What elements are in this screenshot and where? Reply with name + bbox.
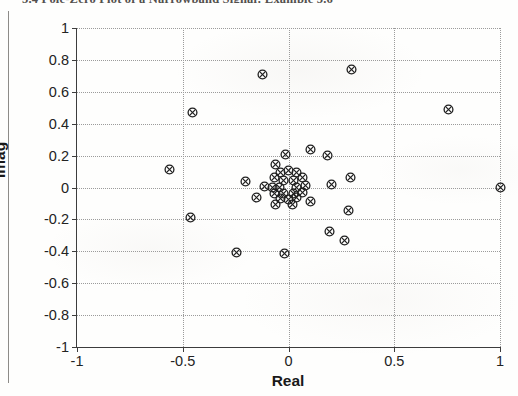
x-axis-tick-label: 1 xyxy=(496,353,504,369)
x-axis-tick-label: 0 xyxy=(284,353,292,369)
y-axis-tick xyxy=(72,124,77,125)
data-point-marker xyxy=(279,248,290,259)
gridline-horizontal xyxy=(77,28,500,29)
x-axis-tick xyxy=(500,347,501,352)
y-axis-tick xyxy=(72,219,77,220)
data-point-marker xyxy=(339,235,350,246)
y-axis-label: Imag xyxy=(0,142,9,178)
gridline-vertical xyxy=(183,28,184,347)
data-point-marker xyxy=(305,144,316,155)
data-point-marker xyxy=(257,69,268,80)
y-axis-tick xyxy=(72,28,77,29)
data-point-marker xyxy=(251,192,262,203)
data-point-marker xyxy=(287,199,298,210)
y-axis-tick-label: 0.8 xyxy=(49,52,69,68)
y-axis-tick xyxy=(72,315,77,316)
y-axis-tick-label: 0.2 xyxy=(49,148,69,164)
x-axis-label: Real xyxy=(76,372,500,390)
plot-area: -1-0.8-0.6-0.4-0.200.20.40.60.81-1-0.500… xyxy=(76,28,500,348)
x-axis-tick xyxy=(394,347,395,352)
data-point-marker xyxy=(443,104,454,115)
y-axis-tick xyxy=(72,188,77,189)
gridline-horizontal xyxy=(77,124,500,125)
x-axis-tick xyxy=(289,347,290,352)
data-point-marker xyxy=(274,182,285,193)
data-point-marker xyxy=(164,164,175,175)
y-axis-tick xyxy=(72,92,77,93)
data-point-marker xyxy=(280,149,291,160)
data-point-marker xyxy=(231,247,242,258)
x-axis-tick xyxy=(77,347,78,352)
gridline-horizontal xyxy=(77,219,500,220)
data-point-marker xyxy=(324,226,335,237)
y-axis-tick-label: 0 xyxy=(61,180,69,196)
x-axis-tick-label: -0.5 xyxy=(170,353,195,369)
gridline-horizontal xyxy=(77,92,500,93)
x-axis-tick-label: 0.5 xyxy=(384,353,404,369)
gridline-horizontal xyxy=(77,283,500,284)
data-point-marker xyxy=(343,205,354,216)
x-axis-tick-label: -1 xyxy=(71,353,84,369)
x-axis-tick xyxy=(183,347,184,352)
gridline-horizontal xyxy=(77,315,500,316)
y-axis-tick-label: -1 xyxy=(56,339,69,355)
y-axis-tick-label: -0.6 xyxy=(44,275,69,291)
data-point-marker xyxy=(270,199,281,210)
data-point-marker xyxy=(346,64,357,75)
y-axis-tick xyxy=(72,283,77,284)
gridline-horizontal xyxy=(77,60,500,61)
data-point-marker xyxy=(240,176,251,187)
y-axis-tick xyxy=(72,251,77,252)
gridline-vertical xyxy=(394,28,395,347)
data-point-marker xyxy=(187,107,198,118)
y-axis-tick xyxy=(72,156,77,157)
scatter-plot-figure: -1-0.8-0.6-0.4-0.200.20.40.60.81-1-0.500… xyxy=(0,0,518,396)
y-axis-tick-label: -0.2 xyxy=(44,211,69,227)
data-point-marker xyxy=(322,150,333,161)
y-axis-tick xyxy=(72,60,77,61)
y-axis-tick-label: 0.4 xyxy=(49,116,69,132)
data-point-marker xyxy=(495,182,506,193)
data-point-marker xyxy=(185,212,196,223)
data-point-marker xyxy=(305,196,316,207)
y-axis-tick-label: 1 xyxy=(61,20,69,36)
data-point-marker xyxy=(345,172,356,183)
data-point-marker xyxy=(326,179,337,190)
y-axis-tick-label: 0.6 xyxy=(49,84,69,100)
y-axis-tick-label: -0.4 xyxy=(44,243,69,259)
y-axis-tick-label: -0.8 xyxy=(44,307,69,323)
